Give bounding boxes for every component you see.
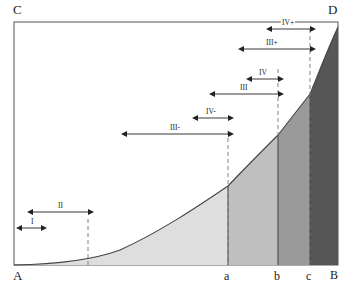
span-label-II: II [57, 202, 64, 210]
span-label-III-plus: III+ [265, 39, 279, 47]
corner-label-D: D [328, 3, 337, 16]
corner-label-C: C [13, 3, 22, 16]
span-label-IV-minus: IV- [205, 108, 217, 116]
axis-tick-label-B: B [330, 269, 338, 281]
axis-tick-label-a: a [224, 270, 229, 282]
axis-tick-label-b: b [274, 270, 280, 282]
corner-label-A: A [13, 269, 22, 282]
span-label-III-minus: III- [169, 124, 181, 132]
figure-svg [0, 0, 355, 293]
span-label-I: I [30, 218, 35, 226]
span-label-IV-plus: IV+ [281, 19, 295, 27]
axis-tick-label-c: c [306, 270, 311, 282]
span-label-IV: IV [258, 69, 268, 77]
figure-canvas: C D A a b c B IV+ III+ IV III IV- III- I… [0, 0, 355, 293]
span-label-III: III [239, 84, 249, 92]
